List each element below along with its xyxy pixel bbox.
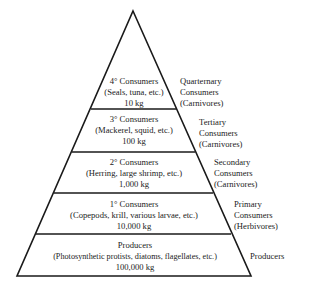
level-title: 3° Consumers bbox=[83, 114, 185, 125]
side-label-quaternary: Quarternary Consumers (Carnivores) bbox=[180, 76, 223, 109]
level-title: 4° Consumers bbox=[93, 76, 175, 87]
level-primary: 1° Consumers (Copepods, krill, various l… bbox=[52, 199, 216, 232]
level-examples: (Copepods, krill, various larvae, etc.) bbox=[52, 210, 216, 221]
level-biomass: 1,000 kg bbox=[68, 179, 200, 190]
level-secondary: 2° Consumers (Herring, large shrimp, etc… bbox=[68, 157, 200, 190]
side-label-primary: Primary Consumers (Herbivores) bbox=[234, 199, 278, 232]
level-examples: (Mackerel, squid, etc.) bbox=[83, 125, 185, 136]
level-biomass: 100 kg bbox=[83, 136, 185, 147]
level-title: 2° Consumers bbox=[68, 157, 200, 168]
level-biomass: 10,000 kg bbox=[52, 221, 216, 232]
level-biomass: 10 kg bbox=[93, 98, 175, 109]
level-examples: (Herring, large shrimp, etc.) bbox=[68, 168, 200, 179]
side-label-tertiary: Tertiary Consumers (Carnivores) bbox=[199, 117, 242, 150]
level-producers: Producers (Photosynthetic protists, diat… bbox=[40, 240, 230, 273]
level-quaternary: 4° Consumers (Seals, tuna, etc.) 10 kg bbox=[93, 76, 175, 109]
level-tertiary: 3° Consumers (Mackerel, squid, etc.) 100… bbox=[83, 114, 185, 147]
level-examples: (Seals, tuna, etc.) bbox=[93, 87, 175, 98]
level-examples: (Photosynthetic protists, diatoms, flage… bbox=[40, 251, 230, 262]
level-title: Producers bbox=[40, 240, 230, 251]
side-label-secondary: Secondary Consumers (Carnivores) bbox=[214, 157, 257, 190]
level-biomass: 100,000 kg bbox=[40, 262, 230, 273]
level-title: 1° Consumers bbox=[52, 199, 216, 210]
side-label-producers: Producers bbox=[250, 251, 284, 262]
